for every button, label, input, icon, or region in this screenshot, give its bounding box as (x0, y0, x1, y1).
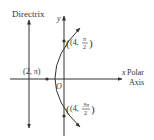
origin-label: O (56, 82, 62, 91)
p1-paren-close: ) (89, 37, 93, 50)
x-axis-label: x (121, 68, 126, 77)
point-4-pi-over-2-label: ( (4, π 2 ) (66, 36, 93, 50)
p1-theta-den: 2 (83, 44, 86, 50)
p3-theta-num: 3π (82, 102, 90, 108)
p3-r: (4, (70, 104, 79, 113)
directrix-label: Directrix (12, 9, 45, 19)
polar-parabola-diagram: Directrix x Polar Axis y O ( (4, π 2 ) (… (0, 0, 154, 140)
p3-paren-close: ) (91, 103, 95, 116)
point-2-pi-label: (2, π) (23, 67, 41, 76)
point-4-3pi-over-2-label: ( (4, 3π 2 ) (66, 102, 95, 116)
polar-label: Polar (127, 68, 144, 77)
p3-theta-den: 2 (84, 110, 87, 116)
p1-r: (4, (70, 38, 79, 47)
axis-label: Axis (129, 78, 144, 87)
p1-theta-num: π (83, 36, 87, 42)
point-2-pi-dot (45, 77, 48, 80)
y-axis-label: y (56, 14, 61, 23)
